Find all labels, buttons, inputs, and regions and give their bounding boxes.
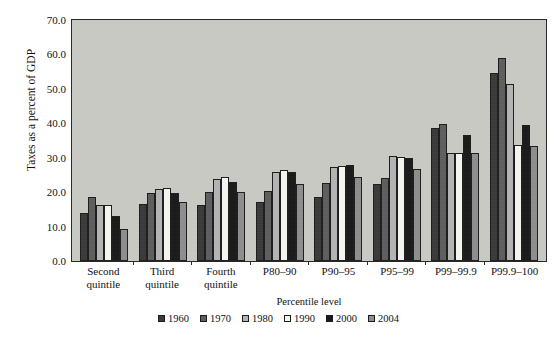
bar-1970[interactable] [205, 192, 213, 261]
bar-1980[interactable] [272, 172, 280, 261]
bar-group [251, 20, 310, 261]
bar-1990[interactable] [221, 177, 229, 261]
bar-group [309, 20, 368, 261]
y-tick-label: 0.0 [24, 255, 66, 267]
x-tick-label: P99.9–100 [485, 265, 544, 290]
x-tick-label: Secondquintile [74, 265, 133, 290]
bar-1970[interactable] [498, 58, 506, 261]
bar-group [368, 20, 427, 261]
bar-2004[interactable] [120, 229, 128, 261]
chart-legend: 196019701980199020002004 [0, 313, 557, 324]
bar-2004[interactable] [530, 146, 538, 261]
bar-2000[interactable] [405, 158, 413, 261]
bar-2000[interactable] [463, 135, 471, 261]
x-tick-label: P90–95 [309, 265, 368, 290]
bar-1960[interactable] [197, 205, 205, 261]
bar-1970[interactable] [322, 183, 330, 261]
legend-label: 1970 [210, 313, 231, 324]
bar-1970[interactable] [381, 178, 389, 261]
bar-1990[interactable] [397, 157, 405, 261]
bar-2000[interactable] [522, 125, 530, 261]
bar-2000[interactable] [112, 216, 120, 261]
legend-swatch-icon [326, 315, 333, 322]
bar-1980[interactable] [506, 84, 514, 261]
bar-group [192, 20, 251, 261]
bar-1990[interactable] [455, 153, 463, 261]
bar-1980[interactable] [389, 156, 397, 261]
y-tick-label: 10.0 [24, 221, 66, 233]
y-tick-label: 50.0 [24, 83, 66, 95]
bar-2004[interactable] [237, 192, 245, 261]
bar-group [485, 20, 544, 261]
bar-1960[interactable] [80, 213, 88, 261]
legend-swatch-icon [368, 315, 375, 322]
bar-1990[interactable] [104, 205, 112, 261]
bar-1960[interactable] [256, 202, 264, 261]
y-tick-label: 60.0 [24, 48, 66, 60]
bar-1980[interactable] [155, 189, 163, 261]
x-tick-label: Fourthquintile [192, 265, 251, 290]
x-axis-title: Percentile level [71, 296, 547, 307]
bar-1960[interactable] [490, 73, 498, 261]
bar-1990[interactable] [280, 170, 288, 261]
bar-1970[interactable] [88, 197, 96, 261]
bar-1960[interactable] [314, 197, 322, 261]
bar-1970[interactable] [147, 193, 155, 262]
bar-1960[interactable] [431, 128, 439, 261]
bar-1960[interactable] [139, 204, 147, 261]
legend-item-2004[interactable]: 2004 [368, 313, 399, 324]
x-tick-label: P99–99.9 [427, 265, 486, 290]
bar-1990[interactable] [514, 145, 522, 261]
legend-item-1990[interactable]: 1990 [284, 313, 315, 324]
bar-1980[interactable] [213, 179, 221, 261]
legend-item-2000[interactable]: 2000 [326, 313, 357, 324]
bar-2000[interactable] [229, 182, 237, 261]
bar-group [426, 20, 485, 261]
bar-group [75, 20, 134, 261]
legend-label: 1960 [168, 313, 189, 324]
bar-2004[interactable] [179, 202, 187, 261]
x-tick-label: P95–99 [368, 265, 427, 290]
legend-item-1960[interactable]: 1960 [158, 313, 189, 324]
bar-2004[interactable] [413, 169, 421, 261]
bar-2004[interactable] [354, 177, 362, 261]
y-tick-label: 20.0 [24, 186, 66, 198]
plot-area [71, 19, 547, 262]
bar-1990[interactable] [163, 188, 171, 261]
bar-2000[interactable] [288, 172, 296, 261]
x-tick-label: Thirdquintile [133, 265, 192, 290]
legend-swatch-icon [284, 315, 291, 322]
bar-1990[interactable] [338, 166, 346, 261]
bar-2004[interactable] [471, 153, 479, 261]
bar-2000[interactable] [171, 193, 179, 262]
legend-label: 2000 [336, 313, 357, 324]
bar-1980[interactable] [447, 153, 455, 261]
bar-2004[interactable] [296, 184, 304, 261]
legend-label: 2004 [378, 313, 399, 324]
x-axis-ticks: SecondquintileThirdquintileFourthquintil… [71, 265, 547, 290]
bar-1980[interactable] [330, 167, 338, 261]
legend-swatch-icon [158, 315, 165, 322]
y-tick-label: 30.0 [24, 152, 66, 164]
y-tick-label: 40.0 [24, 117, 66, 129]
chart-figure: Taxes as a percent of GDP 0.010.020.030.… [0, 0, 557, 345]
bar-groups [72, 20, 546, 261]
legend-swatch-icon [200, 315, 207, 322]
legend-swatch-icon [242, 315, 249, 322]
bar-2000[interactable] [346, 165, 354, 261]
legend-item-1970[interactable]: 1970 [200, 313, 231, 324]
y-tick-label: 70.0 [24, 14, 66, 26]
legend-item-1980[interactable]: 1980 [242, 313, 273, 324]
legend-label: 1990 [294, 313, 315, 324]
bar-1960[interactable] [373, 184, 381, 261]
bar-1980[interactable] [96, 205, 104, 261]
bar-1970[interactable] [439, 124, 447, 261]
bar-group [134, 20, 193, 261]
x-tick-label: P80–90 [250, 265, 309, 290]
legend-label: 1980 [252, 313, 273, 324]
bar-1970[interactable] [264, 191, 272, 261]
